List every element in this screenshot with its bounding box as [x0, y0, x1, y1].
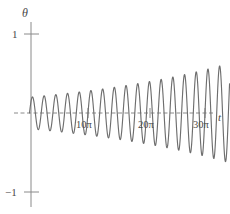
- x-tick-label-30pi: 30π: [193, 119, 210, 130]
- theta-curve: [30, 66, 230, 162]
- y-tick-label-minus-one: −1: [5, 186, 17, 198]
- x-tick-label-10pi: 10π: [76, 119, 93, 130]
- x-axis-label: t: [218, 111, 222, 123]
- x-tick-label-20pi: 20π: [138, 119, 155, 130]
- chart-canvas: θ t 1 −1 10π 20π 30π: [0, 0, 230, 214]
- y-axis-label: θ: [22, 6, 28, 20]
- oscillation-plot: θ t 1 −1 10π 20π 30π: [0, 0, 230, 214]
- y-tick-label-one: 1: [12, 28, 18, 40]
